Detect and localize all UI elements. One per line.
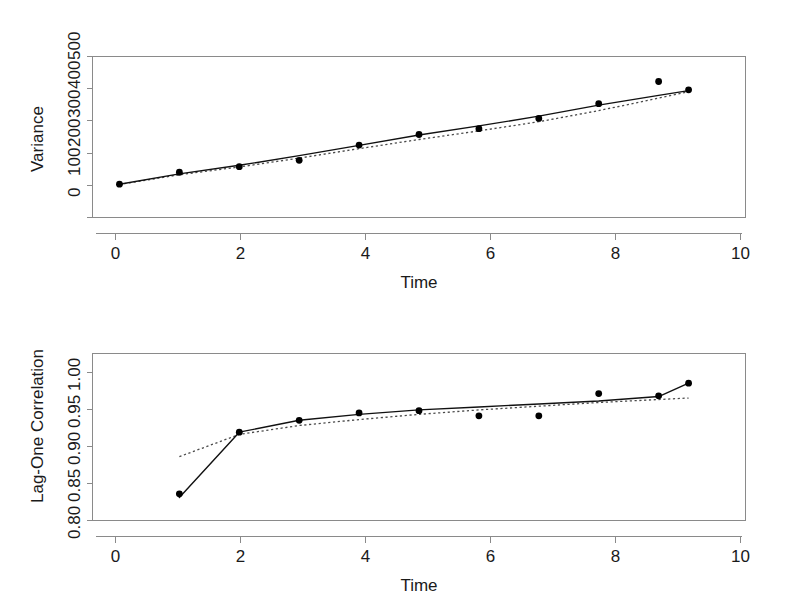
x-axis-title: Time [400,273,437,292]
x-ticklabel-4: 4 [361,244,370,263]
y-ticklabel-300: 300 [65,90,84,118]
x-ticklabel-2: 2 [236,244,245,263]
x-ticklabel-6: 6 [486,244,495,263]
data-point [416,407,423,414]
data-point [655,78,662,85]
data-point [176,169,183,176]
x-ticklabel-10: 10 [731,244,750,263]
y-axis-title: Lag-One Correlation [28,349,47,503]
lag-one-correlation-chart-panel: 0.80 0.85 0.90 0.95 1.00 Lag-One Correla… [0,303,787,606]
reference-line [179,398,688,457]
lag-one-correlation-chart-svg: 0.80 0.85 0.90 0.95 1.00 Lag-One Correla… [0,303,787,606]
data-point [296,417,303,424]
data-point [116,181,123,188]
y-ticklabel-200: 200 [65,119,84,147]
y-ticklabel-080: 0.80 [65,506,84,539]
x-ticklabel-2: 2 [236,547,245,566]
y-ticklabel-0: 0 [65,188,84,197]
variance-chart-svg: 0 100 200 300 400 500 Variance 0 [0,0,787,303]
y-ticklabel-085: 0.85 [65,469,84,502]
x-axis-ticklabels: 0 2 4 6 8 10 [111,547,750,566]
data-point [416,131,423,138]
x-ticklabel-4: 4 [361,547,370,566]
figure-canvas: 0 100 200 300 400 500 Variance 0 [0,0,787,606]
data-point [476,412,483,419]
data-point [655,392,662,399]
y-axis-ticks [87,57,93,218]
y-axis-ticklabels: 0 100 200 300 400 500 [65,32,84,197]
variance-chart-panel: 0 100 200 300 400 500 Variance 0 [0,0,787,303]
plot-frame [93,354,746,521]
x-axis-title: Time [400,576,437,595]
data-point [535,115,542,122]
y-ticklabel-095: 0.95 [65,395,84,428]
y-ticklabel-100: 100 [65,148,84,176]
data-point [356,409,363,416]
x-axis-ticklabels: 0 2 4 6 8 10 [111,244,750,263]
x-ticklabel-0: 0 [111,547,120,566]
x-axis [96,234,742,240]
x-ticklabel-8: 8 [611,244,620,263]
x-axis [96,537,742,543]
y-ticklabel-400: 400 [65,61,84,89]
data-point [685,86,692,93]
x-ticklabel-10: 10 [731,547,750,566]
data-point [595,100,602,107]
y-ticklabel-100: 1.00 [65,358,84,391]
data-point [476,125,483,132]
data-point [236,163,243,170]
x-ticklabel-8: 8 [611,547,620,566]
y-axis-ticks [87,372,93,520]
x-ticklabel-6: 6 [486,547,495,566]
data-point [356,142,363,149]
data-point [535,412,542,419]
data-point [296,157,303,164]
y-axis-ticklabels: 0.80 0.85 0.90 0.95 1.00 [65,358,84,539]
data-point [685,380,692,387]
fitted-line [179,383,688,497]
fitted-line [119,91,688,185]
data-point [176,490,183,497]
y-ticklabel-500: 500 [65,32,84,60]
data-point [595,390,602,397]
data-points [176,380,692,497]
y-axis-title: Variance [28,106,47,172]
data-point [236,429,243,436]
y-ticklabel-090: 0.90 [65,432,84,465]
x-ticklabel-0: 0 [111,244,120,263]
